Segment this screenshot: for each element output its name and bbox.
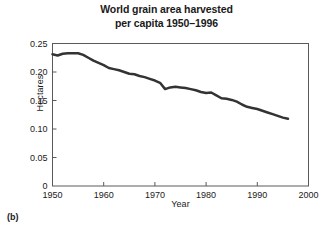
- y-axis-label: Hectares: [35, 61, 45, 125]
- panel-caption: (b): [7, 212, 19, 222]
- data-line-grain-area-per-capita: [53, 53, 289, 119]
- plot-frame: [53, 44, 309, 187]
- y-axis-ticks: [53, 44, 57, 158]
- x-axis-label: Year: [52, 199, 309, 209]
- figure-panel-b: World grain area harvested per capita 19…: [0, 0, 333, 232]
- y-tick-label: 0.10: [30, 124, 48, 134]
- y-tick-label: 0.25: [30, 39, 48, 49]
- y-tick-label: 0: [42, 181, 47, 191]
- y-tick-label: 0.05: [30, 153, 48, 163]
- chart-plot-area: 195019601970198019902000 00.050.100.150.…: [0, 0, 333, 232]
- x-axis-ticks: [53, 182, 309, 186]
